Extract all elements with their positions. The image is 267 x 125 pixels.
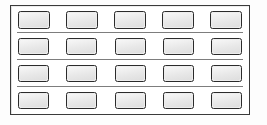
grid-cell-r1c1[interactable] [18,11,50,29]
grid-cell-r3c2[interactable] [66,65,97,82]
grid-cell-r2c5[interactable] [211,38,242,55]
grid-cell-r3c5[interactable] [211,65,242,82]
grid-cell-r2c4[interactable] [163,38,194,55]
grid-cell-r4c5[interactable] [211,92,242,109]
grid-cell-r4c3[interactable] [115,92,146,109]
grid-cell-r4c1[interactable] [18,92,49,109]
grid-cell-r2c3[interactable] [115,38,146,55]
grid-cell-r3c3[interactable] [115,65,146,82]
grid-cell-r3c4[interactable] [163,65,194,82]
grid-row-1 [12,6,248,33]
grid-cell-r4c2[interactable] [66,92,97,109]
diagram-canvas [0,0,267,125]
grid-cell-r1c4[interactable] [162,11,194,29]
grid-cell-r3c1[interactable] [18,65,49,82]
grid-cell-r1c3[interactable] [114,11,146,29]
grid-row-2 [12,33,248,60]
grid-cell-r2c1[interactable] [18,38,49,55]
grid-row-4 [12,87,248,114]
grid-cell-r4c4[interactable] [163,92,194,109]
grid-row-3 [12,60,248,87]
grid-cell-r2c2[interactable] [66,38,97,55]
grid-cell-r1c5[interactable] [210,11,242,29]
grid-cell-r1c2[interactable] [66,11,98,29]
